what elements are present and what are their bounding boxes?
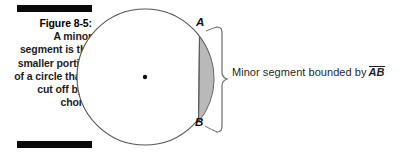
figure-page: Figure 8-5: A minor segment is the small… bbox=[0, 0, 403, 157]
leader-line-a bbox=[206, 27, 217, 31]
leader-line-b bbox=[205, 126, 217, 132]
annotation-prefix-text: Minor segment bounded by bbox=[232, 66, 367, 78]
center-point-dot bbox=[143, 75, 147, 79]
brace-icon bbox=[217, 27, 227, 132]
minor-segment-annotation: Minor segment bounded byAB bbox=[232, 66, 385, 79]
point-label-b: B bbox=[195, 116, 203, 128]
minor-segment-shaded-region bbox=[199, 37, 215, 123]
point-label-a: A bbox=[196, 16, 204, 28]
segment-notation-ab: AB bbox=[369, 66, 385, 79]
